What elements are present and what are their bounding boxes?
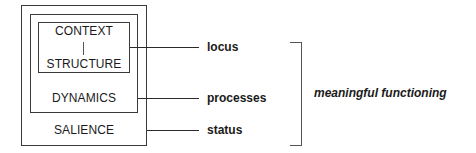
status-connector	[147, 130, 199, 131]
status-label: status	[207, 123, 242, 137]
locus-label: locus	[207, 40, 238, 54]
context-structure-divider	[83, 42, 84, 55]
locus-connector	[130, 47, 199, 48]
dynamics-label: DYNAMICS	[30, 91, 138, 105]
structure-label: STRUCTURE	[38, 57, 130, 71]
salience-label: SALIENCE	[21, 123, 147, 137]
bracket-spine	[301, 42, 302, 146]
meaningful-functioning-label: meaningful functioning	[314, 86, 447, 100]
context-label: CONTEXT	[38, 24, 130, 38]
processes-label: processes	[207, 91, 266, 105]
bracket-bottom	[290, 145, 302, 146]
processes-connector	[138, 98, 199, 99]
